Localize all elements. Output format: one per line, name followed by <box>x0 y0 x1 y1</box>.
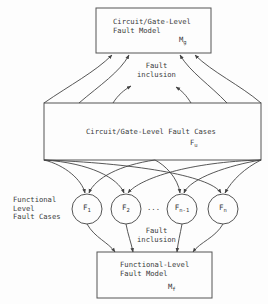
circle-fn-label: Fn <box>208 203 238 212</box>
middle-box-title: Circuit/Gate-Level Fault Cases <box>86 128 216 137</box>
bottom-box-symbol: Mf <box>168 283 176 292</box>
diagram-lines <box>0 0 268 304</box>
fault-model-diagram: Circuit/Gate-Level Fault Model Mg Faulti… <box>0 0 268 304</box>
circle-f1-label: F1 <box>72 203 102 212</box>
fan-out-arrows <box>44 160 261 193</box>
bottom-box-title: Functional-Level Fault Model <box>120 261 189 278</box>
circle-fn-1-label: Fn-1 <box>167 203 197 212</box>
functional-level-fault-cases-label: Functional Level Fault Cases <box>13 196 61 222</box>
lower-fault-inclusion-label: Faultinclusion <box>137 227 176 244</box>
top-box-title: Circuit/Gate-Level Fault Model <box>113 18 191 35</box>
top-box-symbol: Mg <box>179 36 187 45</box>
middle-box-symbol: Fu <box>190 139 198 148</box>
ellipsis: ... <box>147 204 160 213</box>
upper-fault-inclusion-label: Faultinclusion <box>137 62 176 79</box>
circle-f2-label: F2 <box>111 203 141 212</box>
